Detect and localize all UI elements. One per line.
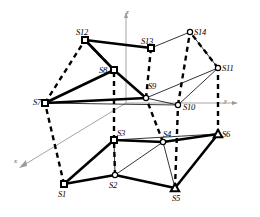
node-marker-S14[interactable] <box>187 29 192 34</box>
y-axis-arrow <box>232 101 238 105</box>
node-marker-S8[interactable] <box>111 67 117 73</box>
node-marker-S4[interactable] <box>160 139 165 144</box>
edge-thin-S14-S11 <box>190 32 218 68</box>
node-label-S10: S10 <box>183 103 195 112</box>
edge-dashed-S10-S14 <box>178 32 190 105</box>
node-label-S9: S9 <box>148 82 156 91</box>
node-label-S2: S2 <box>109 181 117 190</box>
diagram-svg <box>0 0 260 217</box>
node-label-S3: S3 <box>117 129 125 138</box>
edge-thin-S9-S10 <box>146 98 178 105</box>
x-axis-line <box>24 103 126 165</box>
edge-thick-S2-S5 <box>115 175 175 188</box>
edge-thin-S13-S14 <box>151 32 190 48</box>
node-marker-S10[interactable] <box>175 102 180 107</box>
node-label-S13: S13 <box>141 37 153 46</box>
axis-label-x: x <box>14 158 17 165</box>
node-label-S4: S4 <box>163 130 171 139</box>
edge-thin-S4-S5 <box>163 142 175 188</box>
node-marker-S2[interactable] <box>112 172 117 177</box>
edge-thick-S3-S4 <box>114 140 163 142</box>
node-markers-group <box>42 29 222 191</box>
x-axis-arrow <box>19 160 27 168</box>
edge-thin-S2-S4 <box>115 142 163 175</box>
node-marker-S6[interactable] <box>214 130 222 137</box>
node-marker-S1[interactable] <box>61 181 67 187</box>
edge-thick-S8-S9 <box>114 70 146 98</box>
edge-thick-S5-S6 <box>175 134 218 188</box>
edge-dashed-S1-S7 <box>45 103 64 184</box>
node-label-S5: S5 <box>172 194 180 203</box>
node-marker-S7[interactable] <box>42 100 48 106</box>
node-label-S7: S7 <box>33 98 41 107</box>
node-marker-S11[interactable] <box>215 65 220 70</box>
node-marker-S9[interactable] <box>143 95 148 100</box>
node-label-S8: S8 <box>99 66 107 75</box>
axis-label-z: z <box>126 9 129 16</box>
axis-label-y: y <box>224 98 227 105</box>
figure-canvas: S1S2S3S4S5S6S7S8S9S10S11S12S13S14 zyx <box>0 0 260 217</box>
node-marker-S12[interactable] <box>82 37 88 43</box>
edge-thin-S10-S11 <box>178 68 218 105</box>
node-label-S14: S14 <box>194 28 206 37</box>
edge-thick-S7-S9 <box>45 98 146 103</box>
edge-thin-S9-S11 <box>146 68 218 98</box>
node-label-S6: S6 <box>222 130 230 139</box>
node-label-S1: S1 <box>58 190 66 199</box>
edge-dashed-S5-S10 <box>175 105 178 188</box>
node-label-S11: S11 <box>222 64 234 73</box>
node-label-S12: S12 <box>76 28 88 37</box>
